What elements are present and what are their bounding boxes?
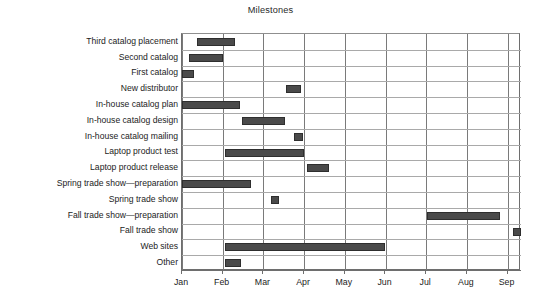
x-axis-line: [181, 270, 521, 271]
x-axis-tick-label: Sep: [487, 277, 527, 287]
gridline-horizontal: [182, 129, 521, 130]
task-bar: [225, 259, 241, 267]
task-bar: [307, 164, 328, 172]
x-axis-tick-label: Aug: [446, 277, 486, 287]
task-bar: [182, 101, 240, 109]
gridline-vertical-jul: [426, 34, 427, 271]
task-bar: [513, 228, 521, 236]
row-label: In-house catalog mailing: [85, 131, 178, 141]
row-label: In-house catalog design: [87, 115, 178, 125]
task-bar: [225, 149, 304, 157]
task-bar: [271, 196, 279, 204]
x-axis-tick-label: Jul: [405, 277, 445, 287]
gridline-vertical-may: [345, 34, 346, 271]
row-label: Laptop product release: [90, 162, 178, 172]
row-label: In-house catalog plan: [96, 99, 178, 109]
task-bar: [242, 117, 284, 125]
row-label: First catalog: [131, 67, 178, 77]
chart-title: Milestones: [0, 5, 541, 15]
task-bar: [182, 70, 194, 78]
task-bar: [189, 54, 224, 62]
gridline-horizontal: [182, 113, 521, 114]
gridline-horizontal: [182, 255, 521, 256]
x-axis-tick-label: Feb: [202, 277, 242, 287]
x-axis-tick: [466, 270, 467, 274]
gridline-horizontal: [182, 97, 521, 98]
gridline-horizontal: [182, 145, 521, 146]
row-label: Laptop product test: [104, 146, 178, 156]
task-bar: [225, 243, 385, 251]
row-label: Spring trade show: [109, 194, 178, 204]
gridline-vertical-sep: [508, 34, 509, 271]
task-bar: [286, 85, 301, 93]
x-axis-tick: [384, 270, 385, 274]
gridline-vertical-jun: [386, 34, 387, 271]
gridline-horizontal: [182, 192, 521, 193]
task-bar: [294, 133, 304, 141]
gridline-horizontal: [182, 66, 521, 67]
x-axis-tick-label: Jun: [364, 277, 404, 287]
x-axis-tick-label: Mar: [242, 277, 282, 287]
row-label: Spring trade show—preparation: [57, 178, 178, 188]
x-axis-tick: [425, 270, 426, 274]
row-label: Second catalog: [119, 52, 178, 62]
x-axis-tick: [344, 270, 345, 274]
x-axis-tick: [262, 270, 263, 274]
row-label: Web sites: [140, 241, 178, 251]
row-label: Fall trade show—preparation: [68, 210, 178, 220]
gridline-horizontal: [182, 81, 521, 82]
gridline-vertical-apr: [304, 34, 305, 271]
task-bar: [197, 38, 234, 46]
x-axis-tick: [181, 270, 182, 274]
x-axis-tick-label: Jan: [161, 277, 201, 287]
gridline-horizontal: [182, 208, 521, 209]
x-axis-tick: [507, 270, 508, 274]
row-label: Other: [157, 257, 179, 267]
gridline-horizontal: [182, 160, 521, 161]
gantt-chart: Milestones Third catalog placementSecond…: [0, 0, 541, 304]
gridline-horizontal: [182, 239, 521, 240]
gridline-vertical-feb: [223, 34, 224, 271]
x-axis-tick: [222, 270, 223, 274]
x-axis-tick-label: Apr: [283, 277, 323, 287]
plot-area: [181, 33, 520, 270]
row-label: Fall trade show: [120, 225, 178, 235]
gridline-horizontal: [182, 176, 521, 177]
gridline-vertical-aug: [467, 34, 468, 271]
x-axis-tick: [303, 270, 304, 274]
task-bar: [182, 180, 251, 188]
row-label: Third catalog placement: [86, 36, 178, 46]
gridline-horizontal: [182, 224, 521, 225]
row-label: New distributor: [121, 83, 178, 93]
task-bar: [427, 212, 500, 220]
gridline-horizontal: [182, 50, 521, 51]
x-axis-tick-label: May: [324, 277, 364, 287]
